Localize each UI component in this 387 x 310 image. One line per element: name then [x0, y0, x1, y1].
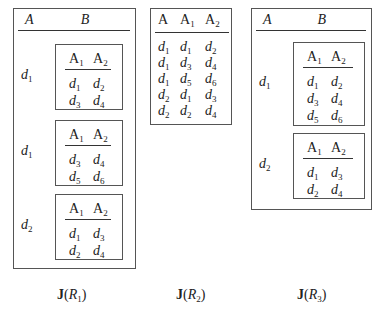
tuple-value: d2: [93, 76, 105, 92]
symbol: d1: [69, 76, 81, 91]
tuple-value: d3: [69, 152, 81, 168]
symbol: d1: [21, 67, 33, 82]
tuple-value: d4: [93, 243, 105, 259]
symbol: A1: [180, 12, 195, 27]
header-B: B: [81, 12, 90, 28]
inner-relation-box: [293, 42, 365, 126]
symbol: d2: [331, 74, 343, 89]
symbol: A1: [69, 127, 84, 142]
symbol: d1: [259, 74, 271, 89]
symbol: d3: [307, 91, 319, 106]
symbol: d2: [69, 243, 81, 258]
inner-header: A2: [93, 51, 108, 67]
symbol: d1: [180, 39, 192, 54]
header-rule: [155, 32, 229, 33]
symbol: d2: [21, 217, 33, 232]
symbol: d4: [331, 91, 343, 106]
column-header: A2: [205, 12, 220, 28]
table-caption: J(R3): [297, 287, 326, 303]
symbol: d1: [180, 87, 192, 102]
symbol: d5: [180, 71, 192, 86]
header-A: A: [25, 12, 34, 28]
tuple-value: d3: [180, 55, 192, 71]
symbol: A1: [307, 140, 322, 155]
tuple-value: d1: [307, 74, 319, 90]
tuple-value: d2: [158, 103, 170, 119]
inner-relation-box: [293, 133, 365, 199]
symbol: d4: [205, 55, 217, 70]
symbol: d3: [331, 165, 343, 180]
tuple-value: d1: [69, 226, 81, 242]
symbol: A2: [93, 127, 108, 142]
tuple-value: d2: [180, 103, 192, 119]
tuple-value: d1: [158, 71, 170, 87]
symbol: B: [81, 12, 90, 27]
tuple-value: d6: [205, 71, 217, 87]
symbol: d4: [205, 103, 217, 118]
inner-header: A1: [69, 127, 84, 143]
inner-relation-box: [55, 194, 123, 260]
symbol: d1: [307, 74, 319, 89]
symbol: d2: [259, 156, 271, 171]
column-header: A: [158, 12, 168, 28]
tuple-value: d2: [69, 243, 81, 259]
inner-header: A2: [331, 49, 346, 65]
symbol: d2: [307, 182, 319, 197]
symbol: A1: [69, 201, 84, 216]
tuple-value: d5: [180, 71, 192, 87]
tuple-value: d6: [331, 108, 343, 124]
symbol: A2: [93, 51, 108, 66]
header-rule: [18, 30, 130, 31]
inner-header: A1: [69, 201, 84, 217]
symbol: d1: [307, 165, 319, 180]
tuple-value: d4: [93, 93, 105, 109]
header-B: B: [318, 12, 327, 28]
symbol: A2: [331, 140, 346, 155]
tuple-value: d3: [331, 165, 343, 181]
symbol: A1: [307, 49, 322, 64]
group-key: d1: [21, 67, 33, 83]
tuple-value: d3: [205, 87, 217, 103]
symbol: d2: [158, 103, 170, 118]
inner-header: A1: [307, 49, 322, 65]
inner-relation-box: [55, 120, 123, 186]
header-A: A: [263, 12, 272, 28]
tuple-value: d2: [158, 87, 170, 103]
symbol: d2: [205, 39, 217, 54]
inner-header: A2: [93, 127, 108, 143]
inner-relation-box: [55, 44, 123, 110]
tuple-value: d5: [307, 108, 319, 124]
tuple-value: d1: [158, 39, 170, 55]
symbol: d3: [180, 55, 192, 70]
table-caption: J(R2): [176, 287, 205, 303]
symbol: d4: [93, 152, 105, 167]
group-key: d2: [21, 217, 33, 233]
symbol: A: [25, 12, 34, 27]
tuple-value: d4: [331, 182, 343, 198]
inner-header: A1: [69, 51, 84, 67]
group-key: d1: [21, 143, 33, 159]
group-key: d2: [259, 156, 271, 172]
symbol: d6: [331, 108, 343, 123]
tuple-value: d2: [307, 182, 319, 198]
header-rule: [256, 30, 366, 31]
symbol: d1: [158, 39, 170, 54]
tuple-value: d3: [93, 226, 105, 242]
symbol: d2: [158, 87, 170, 102]
column-header: A1: [180, 12, 195, 28]
symbol: d5: [69, 169, 81, 184]
tuple-value: d1: [69, 76, 81, 92]
tuple-value: d4: [205, 103, 217, 119]
symbol: d3: [69, 152, 81, 167]
tuple-value: d5: [69, 169, 81, 185]
tuple-value: d3: [307, 91, 319, 107]
inner-header: A2: [93, 201, 108, 217]
tuple-value: d4: [205, 55, 217, 71]
symbol: d1: [69, 226, 81, 241]
table-caption: J(R1): [57, 287, 86, 303]
symbol: d3: [93, 226, 105, 241]
tuple-value: d3: [69, 93, 81, 109]
symbol: d1: [158, 55, 170, 70]
tuple-value: d4: [331, 91, 343, 107]
symbol: A2: [331, 49, 346, 64]
